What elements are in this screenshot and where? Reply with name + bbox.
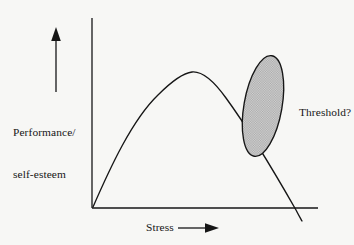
y-axis-label-line1: Performance/ [13,126,76,140]
x-axis-label: Stress [146,221,174,235]
figure-container: Performance/ self-esteem Stress Threshol… [0,0,354,245]
y-axis-label: Performance/ self-esteem [13,98,76,209]
right-arrow-icon [178,223,219,233]
y-axis-label-line2: self-esteem [13,168,76,182]
threshold-label: Threshold? [299,106,351,120]
threshold-ellipse [235,52,290,159]
up-arrow-icon [51,27,61,92]
